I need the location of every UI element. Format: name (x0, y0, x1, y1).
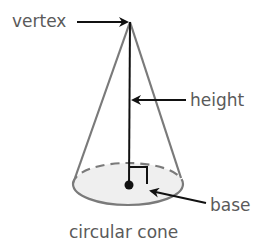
height-line (129, 22, 130, 185)
cone-left-side (75, 22, 130, 178)
cone-figure: vertex height base circular cone (0, 0, 262, 250)
base-center-dot (125, 181, 134, 190)
vertex-label: vertex (12, 11, 66, 31)
cone-diagram: vertex height base circular cone (0, 0, 262, 250)
diagram-caption: circular cone (69, 222, 178, 242)
height-label: height (190, 90, 245, 110)
base-label: base (210, 195, 251, 215)
